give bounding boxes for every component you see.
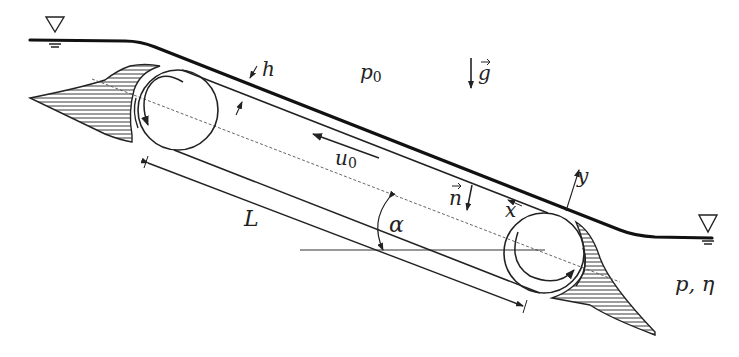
liquid-properties-label: p, η	[675, 272, 715, 296]
incline-angle-arc	[378, 198, 389, 250]
incline-angle-label: α	[389, 212, 404, 237]
gravity-label: g	[478, 61, 491, 85]
belt-film-diagram: h p0 g u0 n x y L α p, η	[0, 0, 739, 357]
length-label: L	[243, 206, 259, 231]
ambient-pressure-label: p0	[360, 60, 382, 85]
right-water-level-icon	[699, 215, 717, 244]
x-axis-label: x	[505, 198, 516, 222]
left-water-level-icon	[46, 17, 64, 47]
right-roller-rotation-arrow	[515, 232, 574, 281]
film-thickness-label: h	[262, 57, 275, 81]
right-hatched-meniscus	[552, 222, 655, 335]
right-roller	[504, 213, 585, 293]
belt-velocity-label: u0	[335, 146, 357, 171]
left-roller-rotation-arrow	[144, 76, 183, 125]
normal-vector-label: n	[449, 186, 462, 210]
y-axis-label: y	[576, 164, 589, 188]
left-roller	[134, 70, 218, 150]
film-thickness-indicator	[236, 66, 257, 115]
left-hatched-meniscus	[30, 65, 160, 143]
length-dimension	[144, 156, 527, 313]
centerline	[92, 79, 620, 282]
normal-vector-arrow	[467, 185, 472, 210]
belt-bottom	[174, 150, 540, 293]
belt-top	[182, 70, 548, 213]
